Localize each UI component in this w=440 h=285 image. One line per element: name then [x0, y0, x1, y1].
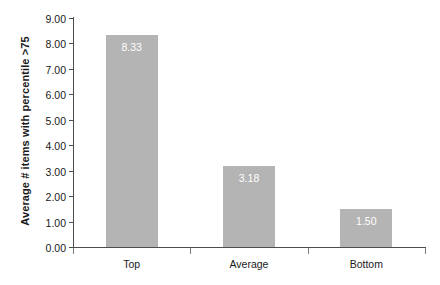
x-axis-category-label: Bottom [306, 258, 426, 270]
x-axis-line [73, 247, 426, 248]
bar: 8.33 [106, 35, 158, 247]
y-axis-tick-label: 9.00 [20, 13, 66, 25]
x-axis-tick-mark [425, 248, 426, 254]
y-axis-tick-label: 5.00 [20, 115, 66, 127]
bar-chart: Average # items with percentile >75 9.00… [0, 0, 440, 285]
bar-value-label: 1.50 [340, 215, 392, 227]
x-axis-category-label: Average [189, 258, 309, 270]
x-axis-tick-mark [73, 248, 74, 254]
y-axis-tick-label: 6.00 [20, 89, 66, 101]
bar-value-label: 8.33 [106, 41, 158, 53]
x-axis-category-label: Top [72, 258, 192, 270]
y-axis-tick-label: 8.00 [20, 38, 66, 50]
y-axis-tick-label: 0.00 [20, 242, 66, 254]
y-axis-tick-label: 3.00 [20, 166, 66, 178]
y-axis-tick-label: 7.00 [20, 64, 66, 76]
bar-value-label: 3.18 [223, 172, 275, 184]
x-axis-tick-mark [308, 248, 309, 254]
bar: 1.50 [340, 209, 392, 247]
plot-area: 8.333.181.50 [73, 18, 425, 247]
x-axis-tick-mark [190, 248, 191, 254]
y-axis-tick-label: 4.00 [20, 140, 66, 152]
bar: 3.18 [223, 166, 275, 247]
y-axis-tick-label: 2.00 [20, 191, 66, 203]
y-axis-tick-label: 1.00 [20, 217, 66, 229]
